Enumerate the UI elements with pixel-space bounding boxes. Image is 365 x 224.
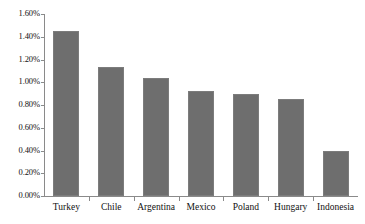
bar-chart: 1.60%1.40%1.20%1.00%0.80%0.60%0.40%0.20%… bbox=[0, 0, 365, 224]
y-axis-tick-mark bbox=[41, 82, 45, 83]
x-axis-category-label: Chile bbox=[89, 201, 134, 213]
x-axis-tick-mark bbox=[179, 197, 180, 201]
x-axis-tick-mark bbox=[89, 197, 90, 201]
x-axis-tick-mark bbox=[223, 197, 224, 201]
y-axis-tick-mark bbox=[41, 151, 45, 152]
x-axis-category-label: Mexico bbox=[179, 201, 224, 213]
x-axis-category-label: Turkey bbox=[44, 201, 89, 213]
y-axis-tick-mark bbox=[41, 128, 45, 129]
x-axis-category-labels: TurkeyChileArgentinaMexicoPolandHungaryI… bbox=[0, 0, 365, 224]
x-axis-category-label: Poland bbox=[223, 201, 268, 213]
y-axis-tick-mark bbox=[41, 105, 45, 106]
x-axis-category-label: Hungary bbox=[268, 201, 313, 213]
x-axis-category-label: Argentina bbox=[134, 201, 179, 213]
y-axis-tick-mark bbox=[41, 14, 45, 15]
y-axis-tick-mark bbox=[41, 60, 45, 61]
x-axis-category-label: Indonesia bbox=[313, 201, 358, 213]
x-axis-tick-mark bbox=[268, 197, 269, 201]
y-axis-tick-mark bbox=[41, 37, 45, 38]
x-axis-tick-mark bbox=[313, 197, 314, 201]
x-axis-tick-mark bbox=[134, 197, 135, 201]
y-axis-tick-mark bbox=[41, 173, 45, 174]
y-axis-tick-mark bbox=[41, 196, 45, 197]
